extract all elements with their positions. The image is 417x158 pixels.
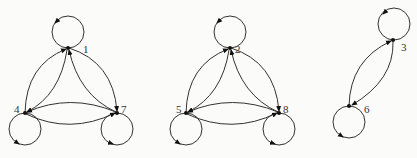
node-8 [277,111,281,115]
edge-1-7 [69,48,117,111]
node-4 [23,111,27,115]
graph-diagram: 1 4 7 2 5 8 3 6 [0,0,417,158]
node-label-1: 1 [83,43,89,55]
node-3 [391,38,395,42]
edge-3-6 [352,42,393,105]
node-label-6: 6 [364,103,370,115]
graph-component-2: 2 5 8 [170,16,295,145]
edge-2-8 [231,48,279,111]
node-label-3: 3 [401,41,407,53]
node-label-8: 8 [283,103,289,115]
node-label-2: 2 [235,43,241,55]
self-loop-8 [263,113,295,145]
node-label-5: 5 [176,103,182,115]
graph-component-1: 1 4 7 [9,16,133,145]
node-label-7: 7 [121,103,127,115]
graph-component-3: 3 6 [333,8,410,138]
self-loop-3 [378,8,410,40]
node-label-4: 4 [14,103,20,115]
node-1 [66,46,70,50]
node-6 [347,104,351,108]
self-loop-7 [101,113,133,145]
node-5 [184,111,188,115]
node-7 [115,111,119,115]
self-loop-6 [333,106,365,138]
node-2 [228,46,232,50]
